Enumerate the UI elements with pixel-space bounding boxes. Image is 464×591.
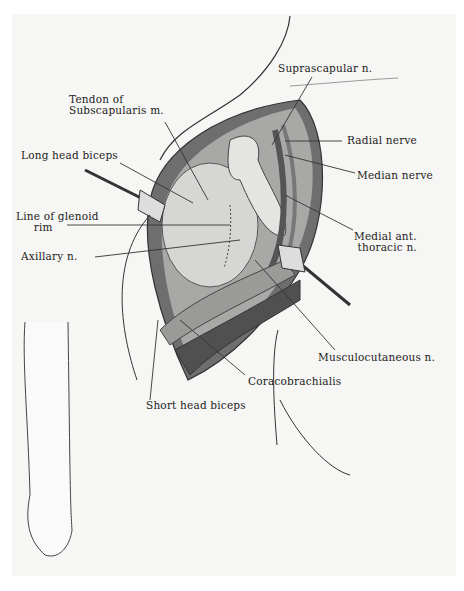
anatomy-illustration [0,0,464,591]
forearm-outline [24,322,72,556]
label-suprascapular-n: Suprascapular n. [278,63,372,74]
label-radial-nerve: Radial nerve [347,135,417,146]
label-median-nerve: Median nerve [357,170,433,181]
label-coracobrachialis: Coracobrachialis [248,376,341,387]
label-short-head-biceps: Short head biceps [146,400,246,411]
label-musculocutaneous-n: Musculocutaneous n. [318,352,435,363]
label-line-of-glenoid-rim: Line of glenoid rim [16,211,99,233]
label-medial-ant-thoracic-n: Medial ant. thoracic n. [354,231,417,253]
label-axillary-n: Axillary n. [21,251,77,262]
label-tendon-subscapularis: Tendon of Subscapularis m. [69,94,164,116]
label-long-head-biceps: Long head biceps [21,150,118,161]
